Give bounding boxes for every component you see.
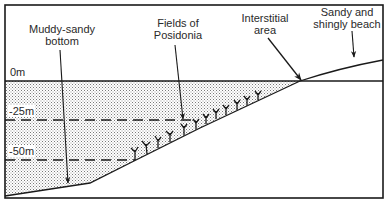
label-posidonia-line2: Posidonia [148, 29, 208, 41]
label-muddy-sandy-line1: Muddy-sandy [22, 23, 102, 35]
depth-label-0m: 0m [9, 66, 26, 78]
label-posidonia-line1: Fields of [148, 17, 208, 29]
label-beach-line1: Sandy and [309, 6, 385, 18]
label-muddy-sandy-line2: bottom [22, 35, 102, 47]
label-muddy-sandy-bottom: Muddy-sandy bottom [22, 23, 102, 47]
label-fields-of-posidonia: Fields of Posidonia [148, 17, 208, 41]
label-interstitial-line1: Interstitial [230, 12, 300, 24]
depth-label-25m: -25m [8, 105, 35, 117]
label-interstitial-line2: area [230, 24, 300, 36]
depth-label-50m: -50m [8, 145, 35, 157]
arrow-beach [352, 31, 354, 57]
water-body [5, 81, 300, 196]
arrow-interstitial [268, 38, 301, 80]
label-sandy-shingly-beach: Sandy and shingly beach [309, 6, 385, 30]
label-interstitial-area: Interstitial area [230, 12, 300, 36]
label-beach-line2: shingly beach [309, 18, 385, 30]
